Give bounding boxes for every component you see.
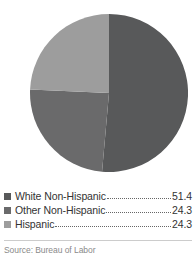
- pie-chart-figure: White Non-Hispanic 51.4 Other Non-Hispan…: [0, 0, 196, 262]
- legend-value-white-non-hispanic: 51.4: [172, 190, 192, 202]
- legend-label-white-non-hispanic: White Non-Hispanic: [15, 190, 106, 202]
- legend-label-other-non-hispanic: Other Non-Hispanic: [15, 204, 105, 216]
- pie-slice-other-non-hispanic: [30, 90, 109, 172]
- legend-swatch-hispanic: [4, 221, 11, 228]
- legend-item-other-non-hispanic: Other Non-Hispanic 24.3: [0, 203, 196, 217]
- source-note: Source: Bureau of Labor: [4, 245, 95, 255]
- legend-value-other-non-hispanic: 24.3: [172, 204, 192, 216]
- pie-chart-plot-area: [0, 0, 196, 187]
- pie-slice-white-non-hispanic: [102, 14, 188, 172]
- pie-slice-hispanic: [30, 14, 109, 93]
- legend-leader-dots: [106, 205, 171, 215]
- legend-item-white-non-hispanic: White Non-Hispanic 51.4: [0, 189, 196, 203]
- legend-value-hispanic: 24.3: [172, 218, 192, 230]
- footer-divider: [4, 240, 192, 241]
- legend-swatch-white-non-hispanic: [4, 193, 11, 200]
- legend-swatch-other-non-hispanic: [4, 207, 11, 214]
- legend-leader-dots: [55, 219, 170, 229]
- legend-label-hispanic: Hispanic: [15, 218, 54, 230]
- legend-leader-dots: [107, 191, 171, 201]
- pie-chart-svg: [30, 0, 188, 187]
- legend-item-hispanic: Hispanic 24.3: [0, 217, 196, 231]
- chart-legend: White Non-Hispanic 51.4 Other Non-Hispan…: [0, 189, 196, 231]
